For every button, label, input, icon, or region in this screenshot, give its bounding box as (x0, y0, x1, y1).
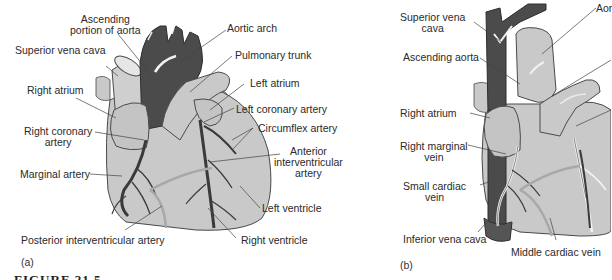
label-right-marginal-vein: Right marginal vein (400, 141, 468, 163)
label-left-atrium: Left atrium (250, 78, 300, 89)
label-ascending-aorta-b: Ascending aorta (403, 52, 479, 63)
panel-tag-b: (b) (400, 259, 413, 271)
label-ascending-aorta: Ascending portion of aorta (70, 14, 141, 36)
label-posterior-interventricular-artery: Posterior interventricular artery (21, 235, 165, 246)
label-line: cava (400, 23, 465, 34)
label-right-atrium: Right atrium (27, 85, 84, 96)
label-right-atrium-b: Right atrium (400, 108, 457, 119)
label-circumflex-artery: Circumflex artery (258, 123, 337, 134)
label-line: vein (400, 152, 468, 163)
label-pulmonary-trunk: Pulmonary trunk (235, 50, 311, 61)
label-inferior-vena-cava: Inferior vena cava (403, 234, 486, 245)
label-marginal-artery: Marginal artery (20, 169, 90, 180)
label-superior-vena-cava-b: Superior vena cava (400, 12, 465, 34)
figure-caption: FIGURE 21.5 (14, 272, 102, 280)
label-line: artery (24, 137, 92, 148)
label-middle-cardiac-vein: Middle cardiac vein (511, 247, 601, 258)
label-line: artery (274, 168, 343, 179)
label-aortic-arch: Aortic arch (227, 23, 277, 34)
panel-tag-a: (a) (21, 256, 34, 268)
label-small-cardiac-vein: Small cardiac vein (403, 181, 466, 203)
label-line: vein (403, 192, 466, 203)
label-superior-vena-cava: Superior vena cava (15, 45, 105, 56)
label-right-coronary-artery: Right coronary artery (24, 126, 92, 148)
label-anterior-interventricular-artery: Anterior interventricular artery (274, 146, 343, 179)
label-line: portion of aorta (70, 25, 141, 36)
label-right-ventricle: Right ventricle (241, 235, 308, 246)
heart-anterior-veins (474, 4, 611, 241)
label-left-ventricle: Left ventricle (262, 203, 322, 214)
label-aorta-cut: Aor (596, 3, 612, 14)
label-left-coronary-artery: Left coronary artery (236, 104, 327, 115)
